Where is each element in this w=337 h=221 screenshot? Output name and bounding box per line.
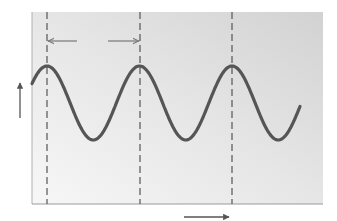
wave-diagram bbox=[0, 0, 337, 221]
